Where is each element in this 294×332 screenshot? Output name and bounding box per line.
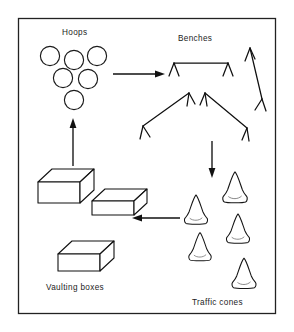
arrow-benches-to-cones [209,141,216,178]
vaulting-box-shape [38,169,94,203]
hoop-circle [78,69,97,88]
label-vaulting-boxes: Vaulting boxes [46,283,104,292]
traffic-cone-shape [189,233,211,261]
boxes-group [38,169,147,271]
arrow-boxes-to-hoops [70,118,77,166]
hoops-group [40,46,106,109]
hoop-circle [87,46,106,65]
traffic-cone-shape [184,195,207,224]
arrow-hoops-to-benches [113,71,165,78]
traffic-cone-shape [226,214,249,243]
vaulting-box-shape [58,241,114,271]
benches-group [140,48,266,141]
label-hoops: Hoops [62,28,87,37]
label-benches: Benches [178,34,212,43]
bench-shape [245,48,266,111]
cones-group [184,172,256,289]
hoop-circle [53,68,72,87]
bench-shape [169,63,233,76]
vaulting-box-shape [92,189,147,215]
label-traffic-cones: Traffic cones [192,298,243,307]
equipment-cycle-diagram: Hoops Benches Vaulting boxes Traffic con… [0,0,294,332]
arrow-cones-to-boxes [132,215,180,222]
hoop-circle [64,90,83,109]
traffic-cone-shape [223,172,247,203]
hoop-circle [64,50,83,69]
bench-shape [140,93,195,139]
hoop-circle [40,46,59,65]
traffic-cone-shape [232,258,256,288]
figure-container: Hoops Benches Vaulting boxes Traffic con… [0,0,294,332]
bench-shape [200,93,249,141]
